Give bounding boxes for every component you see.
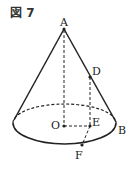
cone-diagram: A D O E B F	[0, 0, 137, 171]
label-O: O	[51, 119, 60, 132]
label-B: B	[118, 124, 126, 137]
label-A: A	[59, 16, 69, 29]
label-E: E	[92, 116, 100, 129]
label-F: F	[75, 149, 83, 162]
point-O	[62, 124, 65, 127]
point-F	[80, 143, 83, 146]
label-D: D	[92, 65, 101, 78]
